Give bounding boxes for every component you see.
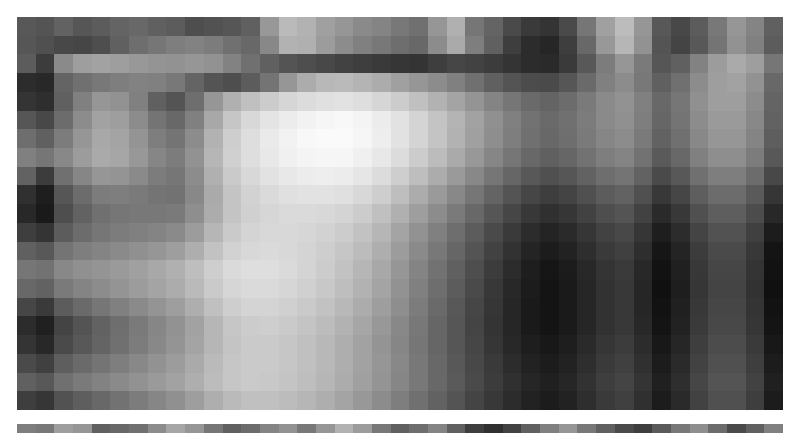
pixel-block: [241, 17, 260, 36]
pixel-block: [36, 223, 55, 242]
pixel-block: [92, 204, 111, 223]
pixel-block: [409, 298, 428, 317]
pixel-block: [279, 391, 298, 410]
pixel-block: [465, 111, 484, 130]
pixel-block: [110, 17, 129, 36]
pixel-block: [17, 424, 36, 433]
pixel-block: [615, 204, 634, 223]
pixel-block: [764, 373, 783, 392]
pixel-block: [559, 391, 578, 410]
pixel-block: [297, 17, 316, 36]
pixel-block: [447, 17, 466, 36]
pixel-block: [540, 17, 559, 36]
pixel-block: [521, 424, 540, 433]
pixel-block: [690, 167, 709, 186]
pixel-block: [634, 92, 653, 111]
pixel-block: [129, 185, 148, 204]
pixel-block: [17, 335, 36, 354]
pixel-block: [577, 185, 596, 204]
pixel-block: [465, 242, 484, 261]
pixel-block: [484, 298, 503, 317]
pixel-block: [727, 279, 746, 298]
pixel-block: [690, 373, 709, 392]
pixel-block: [166, 129, 185, 148]
pixel-block: [596, 298, 615, 317]
pixel-block: [447, 316, 466, 335]
pixel-block: [36, 73, 55, 92]
pixel-block: [260, 185, 279, 204]
pixel-block: [652, 111, 671, 130]
pixel-block: [521, 204, 540, 223]
pixel-block: [746, 391, 765, 410]
pixel-block: [148, 204, 167, 223]
pixel-block: [166, 17, 185, 36]
pixel-block: [503, 373, 522, 392]
pixel-block: [764, 391, 783, 410]
pixel-block: [503, 73, 522, 92]
pixel-block: [671, 242, 690, 261]
pixel-block: [279, 167, 298, 186]
pixel-block: [409, 335, 428, 354]
pixel-block: [391, 335, 410, 354]
pixel-block: [372, 54, 391, 73]
pixel-block: [335, 129, 354, 148]
pixel-block: [577, 17, 596, 36]
pixel-block: [110, 73, 129, 92]
pixel-block: [540, 185, 559, 204]
pixel-block: [671, 354, 690, 373]
pixel-block: [559, 54, 578, 73]
pixel-block: [17, 204, 36, 223]
pixel-block: [73, 260, 92, 279]
pixel-block: [708, 391, 727, 410]
pixel-block: [409, 148, 428, 167]
pixel-block: [204, 424, 223, 433]
pixel-block: [279, 17, 298, 36]
pixel-block: [634, 354, 653, 373]
pixel-block: [129, 204, 148, 223]
pixel-block: [166, 298, 185, 317]
pixel-block: [727, 298, 746, 317]
pixel-block: [110, 223, 129, 242]
pixel-block: [372, 73, 391, 92]
pixel-block: [596, 129, 615, 148]
pixel-block: [577, 223, 596, 242]
pixel-block: [92, 391, 111, 410]
pixel-block: [54, 148, 73, 167]
pixel-block: [110, 298, 129, 317]
pixel-block: [428, 73, 447, 92]
pixel-block: [746, 279, 765, 298]
pixel-block: [204, 17, 223, 36]
pixel-block: [764, 54, 783, 73]
pixel-block: [279, 298, 298, 317]
pixel-block: [559, 111, 578, 130]
pixel-block: [540, 298, 559, 317]
pixel-block: [204, 204, 223, 223]
pixel-block: [241, 36, 260, 55]
pixel-block: [335, 17, 354, 36]
pixel-block: [17, 17, 36, 36]
pixel-block: [204, 260, 223, 279]
pixel-block: [465, 335, 484, 354]
pixel-block: [559, 279, 578, 298]
pixel-block: [110, 260, 129, 279]
pixel-block: [129, 298, 148, 317]
pixel-block: [241, 373, 260, 392]
pixel-block: [746, 373, 765, 392]
pixel-block: [690, 129, 709, 148]
pixel-block: [671, 36, 690, 55]
pixel-block: [746, 167, 765, 186]
pixel-block: [92, 354, 111, 373]
pixel-block: [503, 36, 522, 55]
pixel-block: [540, 391, 559, 410]
pixel-block: [652, 335, 671, 354]
pixel-block: [671, 279, 690, 298]
pixel-block: [615, 279, 634, 298]
pixel-block: [391, 279, 410, 298]
pixel-block: [559, 92, 578, 111]
pixel-block: [540, 354, 559, 373]
pixel-block: [223, 391, 242, 410]
pixel-block: [148, 391, 167, 410]
pixel-block: [260, 129, 279, 148]
pixel-block: [353, 279, 372, 298]
pixel-block: [559, 148, 578, 167]
